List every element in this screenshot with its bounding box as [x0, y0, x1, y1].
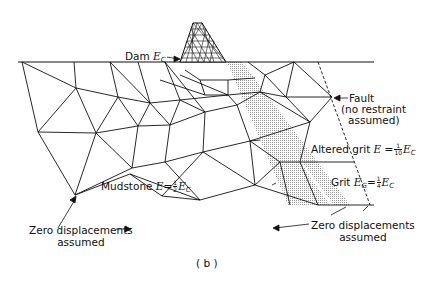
fault-label-line3: assumed) [348, 115, 406, 126]
zero-right-line1: Zero displacements [311, 219, 415, 231]
panel-label: ( b ) [196, 258, 218, 269]
mudstone-fraction: 12 [173, 180, 177, 193]
altered-grit-fraction: 110 [394, 143, 402, 156]
zero-displacements-right-label: Zero displacements assumed [311, 219, 415, 243]
zero-right-line2: assumed [311, 231, 415, 243]
grit-text: Grit [331, 176, 351, 188]
dam-mesh [180, 23, 226, 62]
zero-left-line2: assumed [29, 236, 133, 248]
mudstone-label: Mudstone E=12EC [101, 180, 191, 194]
dam-symbol: E [153, 50, 161, 62]
dam-label-text: Dam [125, 50, 150, 62]
dam-subscript: C [161, 56, 166, 64]
grit-fraction: 14 [377, 176, 381, 189]
zero-left-line1: Zero displacements [29, 224, 133, 236]
altered-grit-tail: E [403, 143, 411, 155]
altered-grit-label: Altered grit E =110EC [311, 143, 416, 157]
grit-label: Grit EG=14EC [331, 176, 394, 190]
mudstone-text: Mudstone [101, 180, 153, 192]
altered-grit-text: Altered grit [311, 143, 370, 155]
altered-grit-symbol: E = [374, 143, 394, 155]
zero-displacements-left-label: Zero displacements assumed [29, 224, 133, 248]
dam-label: Dam EC [125, 51, 166, 64]
fault-label: Fault (no restraint assumed) [349, 93, 406, 126]
